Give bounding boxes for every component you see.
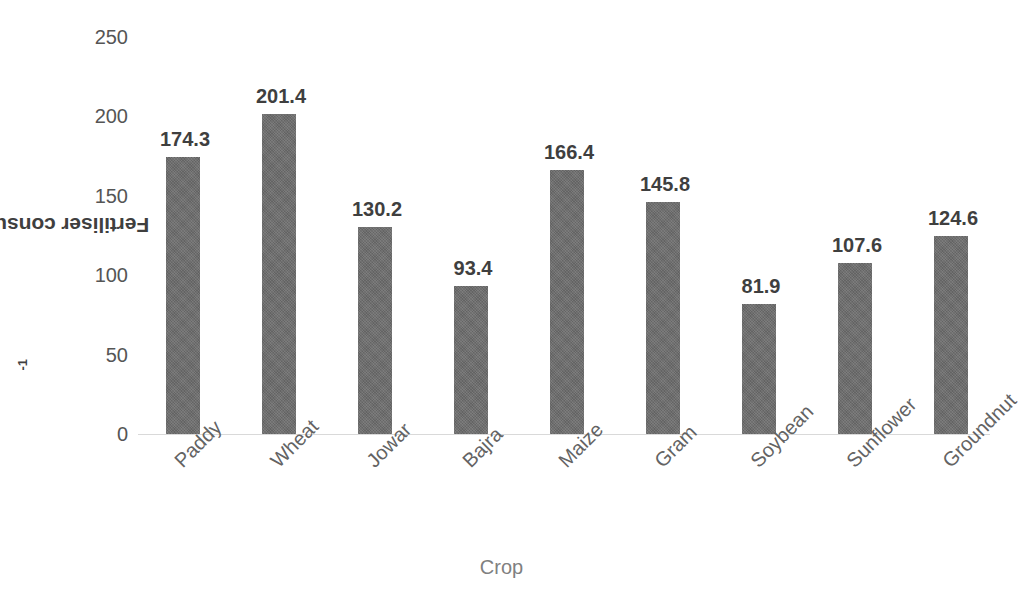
- y-axis-tick-label: 50: [106, 343, 128, 366]
- bar-slot: 145.8: [632, 0, 728, 434]
- bar-value-label: 145.8: [615, 173, 715, 196]
- bar[interactable]: [934, 236, 968, 434]
- bar[interactable]: [166, 157, 200, 434]
- x-axis-category-label-slot: Groundnut: [920, 440, 1016, 550]
- bar-value-label: 166.4: [519, 141, 619, 164]
- y-axis-title-exponent: -1: [15, 359, 30, 370]
- x-axis-category-labels: PaddyWheatJowarBajraMaizeGramSoybeanSunf…: [138, 440, 990, 560]
- plot-area: 174.3201.4130.293.4166.4145.881.9107.612…: [138, 0, 990, 435]
- bar-value-label: 174.3: [135, 128, 235, 151]
- bar[interactable]: [742, 304, 776, 434]
- x-axis-category-label-slot: Soybean: [728, 440, 824, 550]
- bar-value-label: 130.2: [327, 198, 427, 221]
- y-axis-tick-label: 250: [95, 26, 128, 49]
- bar-value-label: 124.6: [903, 207, 1003, 230]
- x-axis-category-label-slot: Paddy: [152, 440, 248, 550]
- bar-value-label: 81.9: [711, 275, 811, 298]
- bar[interactable]: [646, 202, 680, 434]
- bar-slot: 174.3: [152, 0, 248, 434]
- bar[interactable]: [550, 170, 584, 434]
- bar-slot: 124.6: [920, 0, 1016, 434]
- bar-slot: 166.4: [536, 0, 632, 434]
- x-axis-category-label-slot: Jowar: [344, 440, 440, 550]
- bar-value-label: 107.6: [807, 234, 907, 257]
- x-axis-category-label-slot: Sunflower: [824, 440, 920, 550]
- bar-slot: 130.2: [344, 0, 440, 434]
- y-axis-tick-labels: 050100150200250: [56, 0, 138, 470]
- bar[interactable]: [454, 286, 488, 434]
- x-axis-title: Crop: [0, 556, 1003, 579]
- bar-value-label: 201.4: [231, 85, 331, 108]
- y-axis-tick-label: 150: [95, 184, 128, 207]
- y-axis-tick-label: 0: [117, 423, 128, 446]
- y-axis-tick-label: 200: [95, 105, 128, 128]
- y-axis-tick-label: 100: [95, 264, 128, 287]
- bar-slot: 81.9: [728, 0, 824, 434]
- bar[interactable]: [358, 227, 392, 434]
- bar[interactable]: [838, 263, 872, 434]
- bar-value-label: 93.4: [423, 257, 523, 280]
- bar-slot: 93.4: [440, 0, 536, 434]
- y-axis-title: Fertiliser consumption (kg ha-1): [0, 0, 56, 450]
- bar[interactable]: [262, 114, 296, 434]
- x-axis-category-label-slot: Gram: [632, 440, 728, 550]
- x-axis-category-label-slot: Bajra: [440, 440, 536, 550]
- x-axis-category-label-slot: Wheat: [248, 440, 344, 550]
- x-axis-category-label-slot: Maize: [536, 440, 632, 550]
